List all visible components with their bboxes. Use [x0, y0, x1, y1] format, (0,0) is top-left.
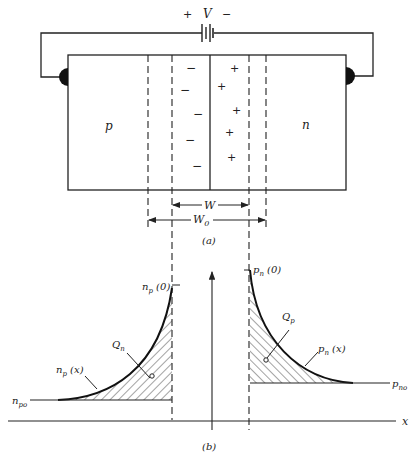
- negative-charge: −: [185, 133, 195, 147]
- left-contact-icon: [59, 68, 68, 86]
- qp-label: Qp: [282, 311, 295, 325]
- positive-charge: +: [230, 62, 239, 75]
- npo-label: npo: [12, 395, 27, 409]
- npx-leader: [85, 376, 97, 389]
- n-region-label: n: [302, 118, 310, 132]
- positive-charge: +: [217, 80, 226, 93]
- p-region-label: p: [105, 119, 113, 133]
- negative-charge: −: [186, 61, 196, 75]
- positive-charge: +: [225, 126, 234, 139]
- battery-voltage-label: V: [203, 7, 213, 21]
- pno-label: pno: [392, 378, 407, 392]
- negative-charge: −: [193, 107, 203, 121]
- battery-plus-label: +: [183, 8, 192, 21]
- right-contact-icon: [346, 67, 355, 85]
- battery-icon: [202, 24, 213, 42]
- positive-charge: +: [227, 151, 236, 164]
- part-a: + V − p n: [41, 7, 373, 430]
- npx-label: np (x): [56, 364, 84, 378]
- qn-marker-icon: [150, 374, 154, 378]
- negative-charges: − − − − −: [180, 61, 203, 173]
- positive-charge: +: [232, 104, 241, 117]
- caption-b: (b): [202, 441, 216, 452]
- battery-minus-label: −: [222, 8, 231, 21]
- caption-a: (a): [202, 235, 216, 246]
- part-b: x np (0) np (x) Qn npo pn (0): [8, 264, 409, 452]
- w0-label-sub: 0: [204, 219, 209, 228]
- pnx-leader: [305, 352, 318, 366]
- x-axis-label: x: [402, 415, 409, 428]
- pnx-label: pn (x): [318, 343, 346, 357]
- pn0-label: pn (0): [253, 264, 281, 278]
- positive-charges: + + + + +: [217, 62, 241, 164]
- pn-junction-diagram: + V − p n: [0, 0, 417, 461]
- w-label: W: [204, 199, 217, 212]
- negative-charge: −: [180, 83, 190, 97]
- np0-label: np (0): [142, 281, 170, 295]
- qn-label: Qn: [112, 339, 125, 353]
- negative-charge: −: [192, 159, 202, 173]
- qp-marker-icon: [264, 358, 268, 362]
